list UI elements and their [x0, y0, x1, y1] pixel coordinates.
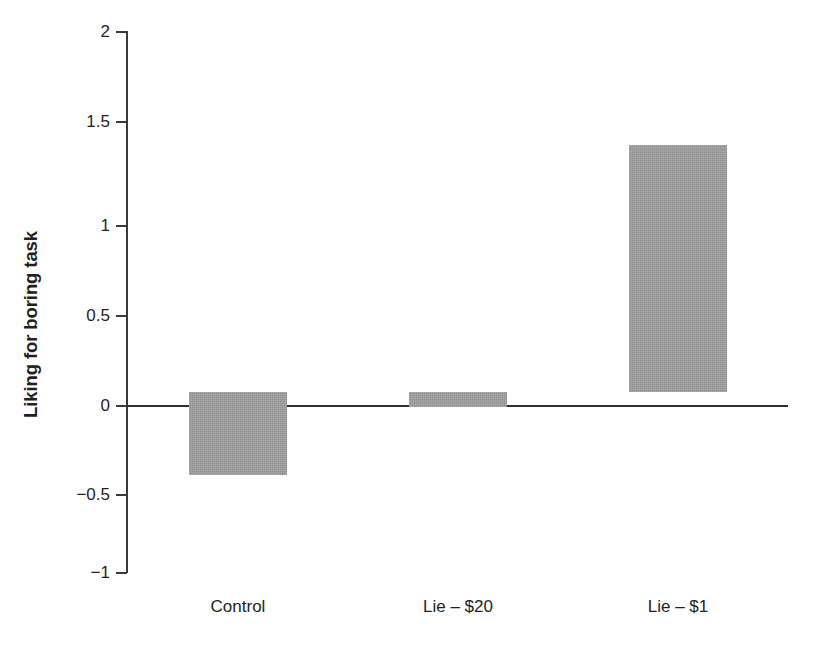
bar-lie-20	[409, 392, 507, 406]
y-tick-label-0-5-wrap: 0.5	[46, 307, 110, 325]
bar-chart-figure: Liking for boring task 2 1.5 1 0.5 0 −0.…	[0, 0, 815, 649]
y-tick-0	[116, 405, 127, 407]
y-tick-label-neg-0-5-wrap: −0.5	[46, 486, 110, 504]
y-tick-label-2: 2	[52, 23, 110, 40]
plot-area: 2 1.5 1 0.5 0 −0.5 −1 Control Lie – $20 …	[0, 0, 815, 649]
y-tick-label-1-wrap: 1	[46, 217, 110, 235]
y-tick-0-5	[116, 315, 127, 317]
y-tick-label-2-wrap: 2	[46, 23, 110, 41]
x-label-lie-1: Lie – $1	[568, 598, 788, 615]
y-tick-label-neg-1: −1	[52, 564, 110, 581]
y-tick-label-1: 1	[52, 217, 110, 234]
y-axis-line	[126, 31, 128, 573]
x-label-lie-20: Lie – $20	[348, 598, 568, 615]
y-tick-label-1-5: 1.5	[52, 113, 110, 130]
y-tick-label-0: 0	[52, 397, 110, 414]
x-label-control: Control	[128, 598, 348, 615]
bar-control	[189, 392, 287, 475]
y-tick-label-1-5-wrap: 1.5	[46, 113, 110, 131]
y-tick-label-0-5: 0.5	[52, 307, 110, 324]
bar-lie-1	[629, 145, 727, 393]
y-tick-label-neg-1-wrap: −1	[46, 564, 110, 582]
y-tick-neg-1	[116, 572, 127, 574]
y-tick-1-5	[116, 121, 127, 123]
y-tick-label-0-wrap: 0	[46, 397, 110, 415]
y-tick-2	[116, 31, 127, 33]
y-tick-1	[116, 225, 127, 227]
y-tick-label-neg-0-5: −0.5	[52, 486, 110, 503]
y-tick-neg-0-5	[116, 494, 127, 496]
